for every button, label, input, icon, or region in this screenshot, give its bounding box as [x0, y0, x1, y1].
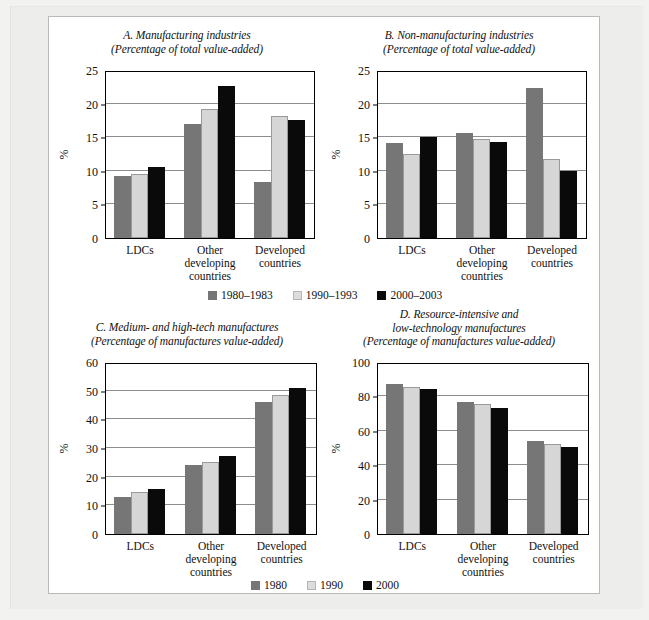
y-axis-tick-label: 20	[325, 97, 370, 112]
y-axis-tick-mark	[101, 171, 105, 172]
legend-item: 1980–1983	[208, 289, 273, 301]
x-axis-category-label: Developedcountries	[509, 540, 599, 566]
bar-d-1-2	[491, 408, 508, 534]
chart-legend-bottom: 198019902000	[49, 579, 601, 591]
y-axis-tick-mark	[373, 500, 377, 501]
legend-item: 1990–1993	[293, 289, 358, 301]
x-axis-category-word: countries	[237, 553, 327, 566]
y-axis-tick-label: 0	[53, 528, 98, 543]
bar-a-0-2	[148, 167, 165, 238]
panel-title-line-1: B. Non-manufacturing industries	[325, 29, 593, 43]
legend-swatch-icon	[293, 291, 302, 300]
y-axis-tick-mark	[373, 171, 377, 172]
panel-title-line-1: A. Manufacturing industries	[53, 29, 321, 43]
bar-a-1-2	[218, 86, 235, 238]
bar-c-1-0	[185, 465, 202, 534]
y-axis-tick-label: 10	[53, 164, 98, 179]
legend-item: 2000–2003	[377, 289, 442, 301]
y-axis-tick-label: 15	[53, 131, 98, 146]
legend-swatch-icon	[363, 581, 372, 590]
bar-d-1-1	[474, 404, 491, 534]
x-axis-category-label: Developedcountries	[237, 540, 327, 566]
y-axis-tick-label: 40	[53, 413, 98, 428]
x-axis-category-label: Developedcountries	[507, 244, 597, 270]
panel-title-b: B. Non-manufacturing industries(Percenta…	[325, 29, 593, 56]
legend-swatch-icon	[251, 581, 260, 590]
bar-b-0-2	[420, 137, 437, 238]
panel-title-d: D. Resource-intensive andlow-technology …	[325, 308, 593, 349]
x-axis-category-word: countries	[165, 270, 255, 283]
bar-c-1-2	[219, 456, 236, 534]
bar-d-0-1	[403, 387, 420, 534]
scanned-page-background: A. Manufacturing industries(Percentage o…	[0, 0, 649, 620]
y-axis-tick-mark	[373, 431, 377, 432]
x-axis-category-word: Developed	[507, 244, 597, 257]
legend-swatch-icon	[208, 291, 217, 300]
x-axis-category-word: countries	[235, 257, 325, 270]
panel-title-line-1: D. Resource-intensive and	[325, 308, 593, 322]
y-axis-tick-mark	[101, 391, 105, 392]
legend-label: 1980–1983	[221, 289, 273, 301]
bar-c-2-2	[289, 388, 306, 534]
chart-panel-c: C. Medium- and high-tech manufactures(Pe…	[53, 315, 321, 595]
legend-swatch-icon	[307, 581, 316, 590]
y-axis-tick-label: 80	[325, 390, 370, 405]
plot-area-d	[377, 363, 589, 535]
bar-c-2-0	[255, 402, 272, 534]
chart-panel-a: A. Manufacturing industries(Percentage o…	[53, 23, 321, 303]
bar-c-0-2	[148, 489, 165, 534]
legend-item: 2000	[363, 579, 399, 591]
bar-b-1-2	[490, 142, 507, 238]
bar-d-1-0	[457, 402, 474, 534]
legend-label: 2000–2003	[390, 289, 442, 301]
legend-label: 1990	[320, 579, 343, 591]
y-axis-tick-label: 5	[53, 198, 98, 213]
y-axis-tick-label: 50	[53, 384, 98, 399]
y-axis-tick-mark	[101, 138, 105, 139]
y-axis-tick-mark	[101, 420, 105, 421]
x-axis-category-word: countries	[438, 566, 528, 579]
bar-b-1-1	[473, 139, 490, 238]
bar-a-0-0	[114, 176, 131, 238]
legend-swatch-icon	[377, 291, 386, 300]
bar-d-2-2	[561, 447, 578, 534]
y-axis-tick-mark	[373, 397, 377, 398]
panel-subtitle: (Percentage of total value-added)	[325, 43, 593, 57]
bar-b-2-1	[543, 159, 560, 238]
y-axis-tick-label: 20	[53, 97, 98, 112]
y-axis-tick-mark	[373, 466, 377, 467]
x-axis-category-label: Developedcountries	[235, 244, 325, 270]
bar-d-0-2	[420, 389, 437, 534]
chart-legend-top: 1980–19831990–19932000–2003	[49, 289, 601, 301]
figure-container: A. Manufacturing industries(Percentage o…	[48, 16, 600, 594]
panel-subtitle: (Percentage of manufactures value-added)	[325, 335, 593, 349]
bar-a-1-1	[201, 109, 218, 238]
y-axis-label: %	[329, 444, 344, 454]
y-axis-tick-label: 15	[325, 131, 370, 146]
legend-label: 1980	[264, 579, 287, 591]
y-axis-tick-label: 60	[325, 424, 370, 439]
y-axis-tick-mark	[101, 104, 105, 105]
y-axis-tick-mark	[101, 205, 105, 206]
x-axis-category-word: countries	[509, 553, 599, 566]
bar-b-1-0	[456, 133, 473, 239]
bar-a-1-0	[184, 124, 201, 238]
y-axis-tick-label: 40	[325, 459, 370, 474]
x-axis-category-word: Developed	[237, 540, 327, 553]
y-axis-tick-label: 0	[325, 232, 370, 247]
y-axis-tick-label: 0	[53, 232, 98, 247]
plot-area-b	[377, 71, 587, 239]
y-axis-tick-mark	[101, 449, 105, 450]
chart-panel-b: B. Non-manufacturing industries(Percenta…	[325, 23, 593, 303]
bar-c-1-1	[202, 462, 219, 534]
bar-b-0-0	[386, 143, 403, 238]
y-axis-tick-label: 5	[325, 198, 370, 213]
bar-c-2-1	[272, 395, 289, 534]
bar-d-2-0	[527, 441, 544, 534]
bar-d-0-0	[386, 384, 403, 535]
bar-c-0-0	[114, 497, 131, 534]
plot-area-c	[105, 363, 317, 535]
y-axis-label: %	[57, 150, 72, 160]
bar-b-0-1	[403, 154, 420, 238]
y-axis-tick-label: 25	[53, 64, 98, 79]
